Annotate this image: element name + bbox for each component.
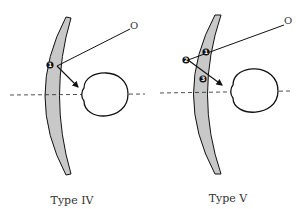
svg-text:2: 2 — [184, 56, 188, 63]
lens-shape — [45, 17, 71, 175]
diagram-type-v: 1 2 3 O Type V — [160, 15, 292, 205]
object-label: O — [284, 15, 292, 26]
marker-2: 2 — [182, 56, 189, 63]
svg-text:3: 3 — [201, 75, 205, 82]
object-label: O — [130, 20, 138, 31]
incident-ray — [57, 29, 130, 66]
diagram-type-iv: 1 O Type IV — [10, 17, 145, 207]
svg-text:1: 1 — [204, 48, 208, 55]
lens-shape — [194, 15, 222, 174]
eye-icon — [231, 69, 278, 112]
svg-text:1: 1 — [48, 61, 52, 68]
caption-type-iv: Type IV — [51, 194, 95, 207]
caption-type-v: Type V — [209, 192, 249, 205]
eye-icon — [82, 73, 128, 116]
